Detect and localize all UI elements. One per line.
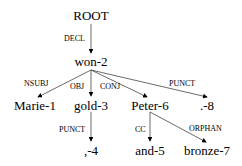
label-obj: OBJ	[70, 82, 84, 91]
label-orphan: ORPHAN	[189, 124, 222, 133]
label-punct-gold: PUNCT	[59, 125, 85, 134]
label-decl: DECL	[64, 34, 85, 43]
node-marie: Marie-1	[14, 98, 56, 113]
label-nsubj: NSUBJ	[24, 79, 48, 88]
node-won: won-2	[74, 54, 107, 69]
label-punct-top: PUNCT	[169, 79, 195, 88]
node-peter: Peter-6	[131, 98, 169, 113]
node-comma-4: ,-4	[84, 143, 99, 158]
label-cc: CC	[135, 125, 146, 134]
node-gold: gold-3	[74, 98, 108, 113]
dependency-tree: DECL NSUBJ OBJ CONJ PUNCT PUNCT CC ORPHA…	[0, 0, 242, 166]
label-conj: CONJ	[100, 82, 120, 91]
node-punct-8: .-8	[200, 98, 214, 113]
node-and-5: and-5	[135, 143, 165, 158]
node-bronze-7: bronze-7	[184, 143, 231, 158]
node-root: ROOT	[73, 8, 108, 23]
